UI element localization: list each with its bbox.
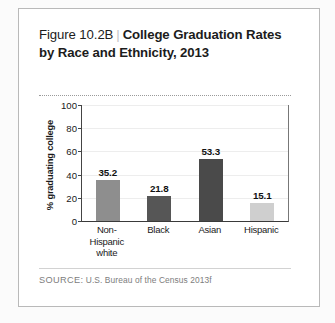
bar-chart: % graduating college 020406080100 35.221… — [39, 105, 299, 257]
y-axis-tick-label: 60 — [66, 146, 77, 157]
bar-value-label: 21.8 — [150, 183, 168, 194]
figure-number: Figure 10.2B — [39, 27, 113, 42]
figure-card: Figure 10.2B|College Graduation Rates by… — [18, 8, 320, 307]
bar-series: 35.221.853.315.1 — [82, 105, 288, 221]
title-separator: | — [113, 27, 122, 42]
title-divider — [39, 95, 291, 96]
x-axis-label-line: Asian — [184, 224, 236, 236]
bar[interactable]: 15.1 — [250, 203, 274, 221]
source-divider — [39, 268, 291, 269]
x-axis-category-label: Hispanic — [236, 224, 288, 259]
bar-slot: 21.8 — [134, 105, 186, 221]
x-axis-label-line: Non-Hispanic — [81, 224, 133, 247]
x-axis-category-label: Black — [133, 224, 185, 259]
figure-title: Figure 10.2B|College Graduation Rates by… — [39, 26, 297, 61]
y-axis-tick-label: 40 — [66, 169, 77, 180]
bar[interactable]: 53.3 — [199, 159, 223, 221]
y-axis-tick-label: 80 — [66, 123, 77, 134]
source-label: SOURCE: — [39, 275, 83, 285]
x-axis-category-labels: Non-HispanicwhiteBlackAsianHispanic — [81, 224, 287, 259]
y-axis-tick-label: 20 — [66, 192, 77, 203]
source-citation: U.S. Bureau of the Census 2013f — [86, 275, 212, 285]
bar[interactable]: 21.8 — [147, 196, 171, 221]
x-axis-label-line: white — [81, 247, 133, 259]
bar[interactable]: 35.2 — [96, 180, 120, 221]
bar-slot: 15.1 — [237, 105, 289, 221]
x-axis-label-line: Black — [133, 224, 185, 236]
bar-value-label: 35.2 — [99, 167, 117, 178]
y-axis-tickmark — [78, 221, 82, 222]
source-note: SOURCE: U.S. Bureau of the Census 2013f — [39, 275, 212, 285]
x-axis-category-label: Asian — [184, 224, 236, 259]
page-background: Figure 10.2B|College Graduation Rates by… — [0, 0, 335, 323]
x-axis-category-label: Non-Hispanicwhite — [81, 224, 133, 259]
bar-slot: 53.3 — [185, 105, 237, 221]
bar-value-label: 53.3 — [202, 146, 220, 157]
y-axis-tick-label: 0 — [72, 216, 77, 227]
y-axis-tick-label: 100 — [61, 100, 77, 111]
x-axis-label-line: Hispanic — [236, 224, 288, 236]
bar-value-label: 15.1 — [253, 190, 271, 201]
plot-area: 35.221.853.315.1 — [81, 105, 289, 222]
bar-slot: 35.2 — [82, 105, 134, 221]
y-axis-tick-labels: 020406080100 — [55, 105, 77, 221]
